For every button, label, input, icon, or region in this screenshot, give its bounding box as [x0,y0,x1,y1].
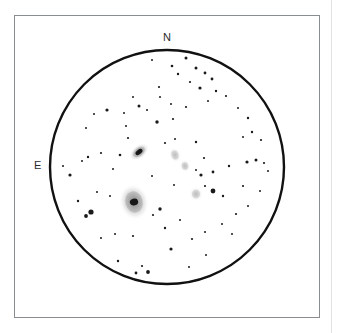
star-point [212,171,215,174]
star-point [85,127,87,129]
star-point [135,272,138,275]
field-of-view-circle-layer [50,50,284,284]
star-point [100,237,102,239]
star-point [259,190,261,192]
star-point [247,117,249,119]
star-point [204,72,207,75]
star-point [204,231,206,233]
star-point [127,137,129,139]
star-point [222,195,224,197]
star-point [177,73,179,75]
star-point [87,156,89,158]
star-point [191,238,193,240]
star-point [260,139,262,141]
sketch-page: N E [0,0,339,333]
star-point [169,247,172,250]
star-point [172,118,174,120]
star-point [203,157,205,159]
star-point [146,270,150,274]
star-point [84,214,88,218]
star-point [132,235,134,237]
star-point [151,175,153,177]
star-point [185,57,188,60]
galaxy-elongated-upper [126,139,153,164]
direction-label-east: E [34,160,42,171]
star-point [231,233,233,235]
star-point [188,266,190,268]
star-point [242,185,244,187]
star-point [179,219,181,221]
star-point [171,65,174,68]
star-point [152,214,154,216]
star-point [185,106,187,108]
star-point [204,185,206,187]
star-point [211,189,216,194]
star-point [195,67,198,70]
direction-label-north: N [163,32,171,43]
star-point [221,223,223,225]
star-point [267,170,269,172]
star-point [96,191,98,193]
star-point [132,96,134,98]
star-point [211,78,214,81]
star-point [117,260,119,262]
star-point [195,141,197,143]
star-point [123,112,125,114]
star-point [199,173,202,176]
star-point [158,86,160,88]
galaxy-inner-glow [192,190,200,199]
eyepiece-field-drawing [0,0,339,333]
star-point [170,103,172,105]
star-point [251,131,253,133]
star-point [242,136,244,138]
star-point [77,200,79,202]
star-point [105,108,108,111]
star-point [205,254,207,256]
star-point [174,138,176,140]
star-point [255,159,258,162]
star-point [62,165,64,167]
star-point [237,107,239,109]
star-point [189,81,191,83]
star-point [164,142,166,144]
star-point [155,120,158,123]
star-point [164,227,166,229]
star-point [93,113,95,115]
star-point [81,160,83,162]
star-point [158,207,161,210]
star-point [195,169,197,171]
star-point [68,173,71,176]
galaxy-faint-center-lower [178,159,191,174]
star-point [119,154,122,157]
star-point [245,160,248,163]
star-point [146,109,148,111]
star-point [109,195,111,197]
star-point [141,265,143,267]
galaxy-large-lower [115,180,154,224]
star-point [100,152,102,154]
star-point [228,165,230,167]
star-point [247,205,249,207]
star-point [151,59,153,61]
galaxy-layer [115,139,203,223]
star-point [114,233,116,235]
star-point [198,86,201,89]
star-point [112,168,114,170]
star-point [159,96,161,98]
star-point [215,90,217,92]
star-point [88,209,93,214]
star-point [235,213,237,215]
star-point [138,105,141,108]
galaxy-faint-right [189,187,203,202]
star-point [263,162,265,164]
star-point [125,125,127,127]
star-layer [62,57,269,275]
star-point [173,184,175,186]
star-point [207,100,209,102]
field-of-view-circle [50,50,284,284]
star-point [225,95,227,97]
